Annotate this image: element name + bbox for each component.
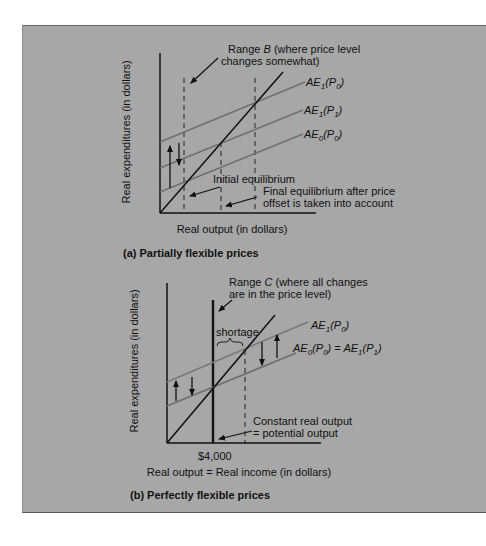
- chart-a-y-axis-label: Real expenditures (in dollars): [120, 60, 132, 203]
- chart-b-shortage-brace-icon: [217, 338, 243, 346]
- chart-a-range-b-label-line1: Range B (where price level: [228, 43, 360, 55]
- chart-a-range-b-label-line2: changes somewhat): [221, 55, 319, 67]
- chart-b-range-c-arrow-icon: [219, 300, 232, 311]
- chart-b-shortage-label: shortage: [216, 326, 259, 338]
- chart-b-constant-output-line1: Constant real output: [253, 415, 352, 427]
- chart-a-ae1-p0-line: [160, 82, 305, 142]
- chart-b-constant-output-arrow-icon: [219, 431, 252, 439]
- chart-b-caption: (b) Perfectly flexible prices: [130, 489, 270, 501]
- chart-a-ae0-p0-label: AE0(P0): [303, 128, 343, 143]
- chart-a-ae1-p1-label: AE1(P1): [303, 104, 343, 119]
- chart-a-x-axis-label: Real output (in dollars): [177, 223, 288, 235]
- chart-b-ae1-p0-label: AE1(P0): [310, 319, 350, 334]
- chart-b-constant-output-line2: = potential output: [253, 427, 338, 439]
- chart-a-initial-eq-arrow-icon: [190, 187, 220, 196]
- chart-a-ae1-p0-label: AE1(P0): [305, 76, 345, 91]
- chart-a-initial-equilibrium-label: Initial equilibrium: [213, 173, 295, 185]
- chart-a-final-equilibrium-line2: offset is taken into account: [263, 197, 393, 209]
- chart-a-range-b-arrow-icon: [191, 58, 218, 83]
- chart-a-ae1-p1-line: [160, 110, 303, 168]
- chart-a-caption: (a) Partially flexible prices: [123, 247, 259, 259]
- chart-b-y-axis-label: Real expenditures (in dollars): [128, 289, 140, 432]
- chart-b-range-c-label-line2: are in the price level): [229, 288, 331, 300]
- chart-a-final-eq-arrow-icon: [226, 197, 257, 206]
- chart-b-x-axis-label: Real output = Real income (in dollars): [147, 466, 331, 478]
- chart-b: shortage Range C (where all changes are …: [128, 276, 382, 501]
- chart-b-range-c-label-line1: Range C (where all changes: [229, 276, 368, 288]
- chart-b-ae0-p0-equals-ae1-p1-label: AE0(P0) = AE1(P1): [292, 342, 382, 357]
- chart-a-final-equilibrium-line1: Final equilibrium after price: [263, 185, 395, 197]
- chart-b-x-tick-4000: $4,000: [198, 450, 232, 462]
- chart-a: Range B (where price level changes somew…: [120, 43, 395, 259]
- chart-b-ae0-p0-line: [167, 353, 296, 406]
